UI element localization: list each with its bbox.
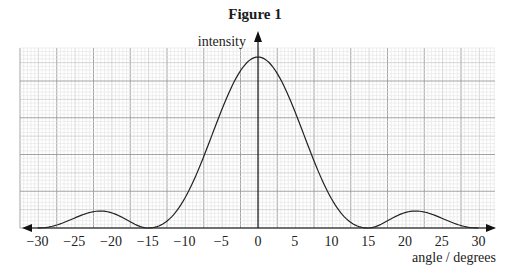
x-tick-label: −15 <box>137 234 159 249</box>
x-tick-label: 5 <box>291 234 298 249</box>
x-tick-label: −20 <box>100 234 122 249</box>
x-tick-label: 10 <box>325 234 339 249</box>
x-tick-labels: −30−25−20−15−10−5051015202530 <box>27 234 486 249</box>
x-tick-label: −25 <box>63 234 85 249</box>
x-tick-label: 20 <box>398 234 412 249</box>
x-tick-label: 30 <box>472 234 486 249</box>
x-axis-label: angle / degrees <box>412 250 496 265</box>
x-tick-label: 0 <box>255 234 262 249</box>
diffraction-chart: −30−25−20−15−10−5051015202530 intensity … <box>0 0 510 278</box>
y-axis-label: intensity <box>198 34 246 49</box>
x-tick-label: 25 <box>435 234 449 249</box>
x-tick-label: −10 <box>174 234 196 249</box>
x-axis-arrow-right-icon <box>486 224 496 232</box>
y-axis-arrow-icon <box>254 31 262 42</box>
x-tick-label: −5 <box>214 234 229 249</box>
x-tick-label: 15 <box>361 234 375 249</box>
x-tick-label: −30 <box>27 234 49 249</box>
